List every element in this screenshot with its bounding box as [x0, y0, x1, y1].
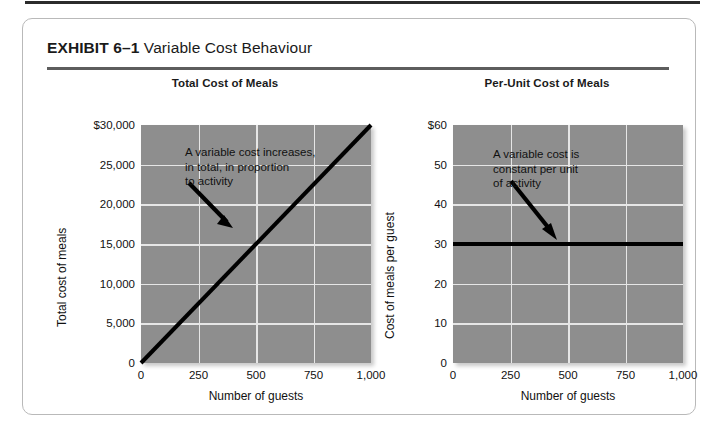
- x-tick-label: 500: [558, 369, 577, 381]
- y-tick-label: 15,000: [100, 238, 135, 250]
- x-tick-label: 0: [450, 369, 456, 381]
- y-tick-label: 20,000: [100, 198, 135, 210]
- y-tick-label: 10: [434, 317, 447, 329]
- y-tick-label: 50: [434, 159, 447, 171]
- plot-area-total-cost: A variable cost increases, in total, in …: [141, 125, 371, 363]
- chart-title-total-cost: Total Cost of Meals: [41, 77, 371, 89]
- y-tick-label: 40: [434, 198, 447, 210]
- y-axis-ticks-per-unit-cost: $60 50 40 30 20 10 0: [397, 125, 447, 363]
- y-tick-label: 0: [129, 357, 135, 369]
- y-tick-label: 30: [434, 238, 447, 250]
- page-top-rule: [25, 1, 700, 4]
- y-tick-label: 20: [434, 278, 447, 290]
- exhibit-card: EXHIBIT 6–1 Variable Cost Behaviour Tota…: [22, 18, 696, 415]
- x-tick-label: 750: [304, 369, 323, 381]
- exhibit-title: Variable Cost Behaviour: [144, 39, 312, 56]
- x-tick-label: 750: [616, 369, 635, 381]
- y-tick-label: 0: [441, 357, 447, 369]
- exhibit-header-rule: [47, 67, 669, 70]
- x-axis-title-per-unit-cost: Number of guests: [453, 389, 683, 403]
- chart-title-per-unit-cost: Per-Unit Cost of Meals: [379, 77, 679, 89]
- y-tick-label: $60: [428, 119, 447, 131]
- exhibit-number: EXHIBIT 6–1: [47, 39, 139, 56]
- x-tick-label: 250: [189, 369, 208, 381]
- plot-area-per-unit-cost: A variable cost is constant per unit of …: [453, 125, 683, 363]
- x-tick-label: 0: [138, 369, 144, 381]
- x-axis-title-total-cost: Number of guests: [141, 389, 371, 403]
- annotation-text-total-cost: A variable cost increases, in total, in …: [185, 145, 315, 189]
- x-tick-label: 500: [246, 369, 265, 381]
- y-tick-label: $30,000: [93, 119, 135, 131]
- annotation-text-per-unit-cost: A variable cost is constant per unit of …: [493, 147, 579, 191]
- chart-per-unit-cost-of-meals: Per-Unit Cost of Meals A variable cost i…: [379, 77, 679, 407]
- exhibit-header: EXHIBIT 6–1 Variable Cost Behaviour: [47, 39, 312, 57]
- y-axis-ticks-total-cost: $30,000 25,000 20,000 15,000 10,000 5,00…: [69, 125, 135, 363]
- x-tick-label: 250: [501, 369, 520, 381]
- y-tick-label: 25,000: [100, 159, 135, 171]
- y-axis-title-per-unit-cost: Cost of meals per guest: [383, 212, 397, 339]
- y-tick-label: 5,000: [106, 317, 135, 329]
- chart-total-cost-of-meals: Total Cost of Meals A variable cost incr…: [41, 77, 371, 407]
- x-tick-label: 1,000: [669, 369, 698, 381]
- y-axis-title-total-cost: Total cost of meals: [55, 228, 69, 327]
- y-tick-label: 10,000: [100, 278, 135, 290]
